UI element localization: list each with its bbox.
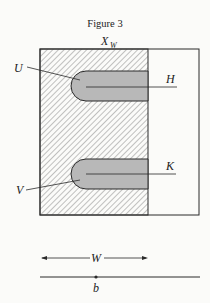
figure-title: Figure 3 <box>87 18 122 29</box>
label-u: U <box>14 61 24 75</box>
label-h: H <box>165 72 176 86</box>
figure-3-diagram: Figure 3 X W H K U V W b <box>0 0 210 303</box>
arrowhead-left-icon <box>41 256 47 260</box>
label-k: K <box>165 159 175 173</box>
label-v: V <box>16 183 25 197</box>
label-x: X <box>100 34 109 48</box>
arrowhead-right-icon <box>142 256 148 260</box>
label-b: b <box>93 281 99 295</box>
upper-slot <box>71 71 148 101</box>
base-point-dot <box>94 275 97 278</box>
label-w: W <box>91 251 102 265</box>
